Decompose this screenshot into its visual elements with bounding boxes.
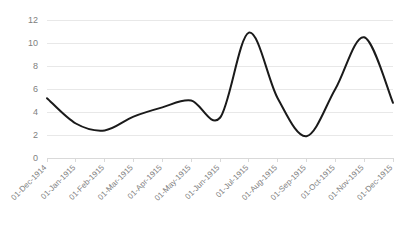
line-chart: 024681012 01-Dec-191401-Jan-191501-Feb-1… [0, 0, 407, 226]
y-axis-tick-label: 4 [33, 107, 38, 117]
y-axis-tick-labels: 024681012 [28, 15, 38, 163]
y-axis-tick-label: 12 [28, 15, 38, 25]
series-line [47, 33, 393, 137]
y-axis-tick-label: 6 [33, 84, 38, 94]
x-axis-tick-labels: 01-Dec-191401-Jan-191501-Feb-191501-Mar-… [9, 163, 394, 203]
gridlines [47, 20, 393, 158]
x-axis-tickmarks [47, 158, 393, 162]
y-axis-tick-label: 8 [33, 61, 38, 71]
y-axis-tick-label: 0 [33, 153, 38, 163]
data-series [47, 33, 393, 137]
chart-canvas: 024681012 01-Dec-191401-Jan-191501-Feb-1… [0, 0, 407, 226]
y-axis-tick-label: 10 [28, 38, 38, 48]
y-axis-tick-label: 2 [33, 130, 38, 140]
